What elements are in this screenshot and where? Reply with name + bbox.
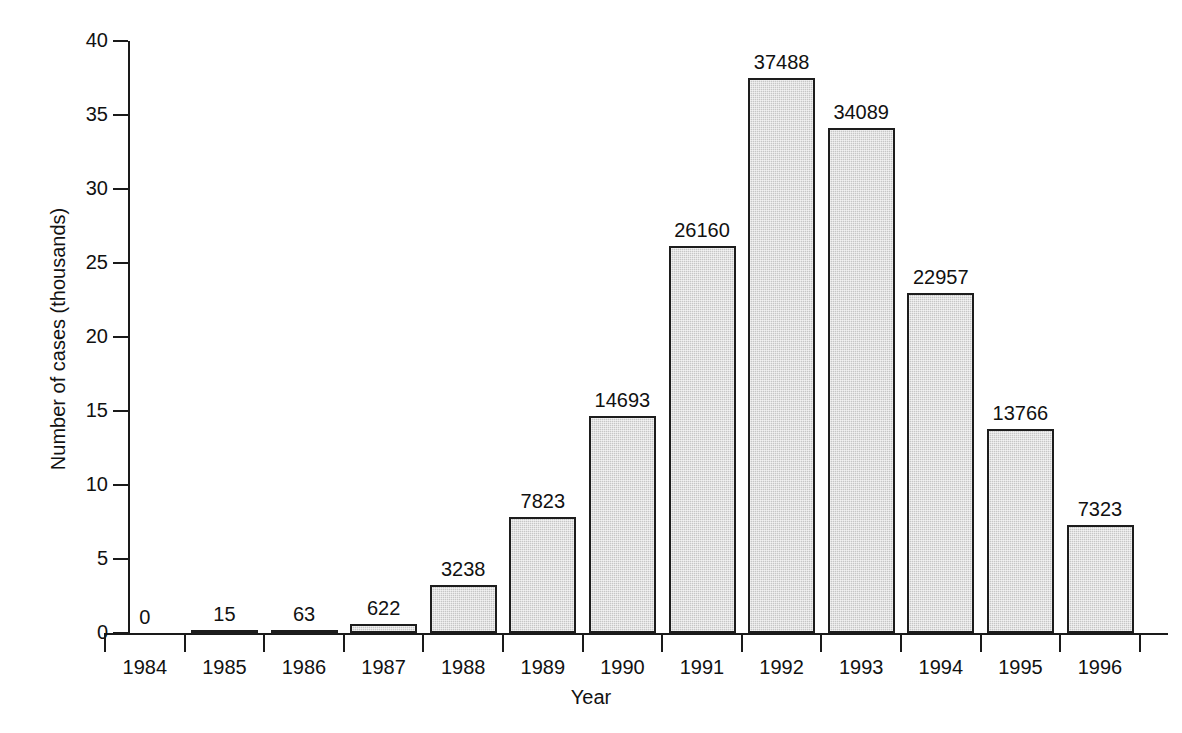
- bar[interactable]: [589, 416, 656, 633]
- bar[interactable]: [907, 293, 974, 633]
- bar-chart-plot-area: 0510152025303540 19841985198619871988198…: [0, 0, 1182, 733]
- bar-value-label: 7323: [1040, 498, 1160, 520]
- y-tick-mark: [113, 114, 128, 116]
- bar-value-label: 37488: [722, 51, 842, 73]
- x-tick-mark: [502, 635, 504, 652]
- y-tick-mark: [113, 262, 128, 264]
- x-tick-mark: [104, 635, 106, 652]
- x-tick-mark: [343, 635, 345, 652]
- bar-value-label: 22957: [881, 266, 1001, 288]
- y-tick-label: 5: [48, 548, 108, 568]
- x-tick-label: 1996: [1050, 656, 1150, 678]
- bar-value-label: 622: [324, 597, 444, 619]
- bar-value-label: 13766: [960, 402, 1080, 424]
- x-tick-mark: [263, 635, 265, 652]
- y-tick-mark: [113, 188, 128, 190]
- x-tick-mark: [422, 635, 424, 652]
- bar[interactable]: [828, 128, 895, 633]
- y-tick-mark: [113, 558, 128, 560]
- y-tick-mark: [113, 336, 128, 338]
- chart-page: 0510152025303540 19841985198619871988198…: [0, 0, 1182, 733]
- bar[interactable]: [271, 630, 338, 634]
- x-tick-mark: [1059, 635, 1061, 652]
- bar[interactable]: [509, 517, 576, 633]
- bar-value-label: 14693: [562, 389, 682, 411]
- y-tick-mark: [113, 632, 128, 634]
- y-tick-label: 35: [48, 104, 108, 124]
- x-axis-title: Year: [0, 686, 1182, 708]
- bar-value-label: 7823: [483, 490, 603, 512]
- x-tick-mark: [1139, 635, 1141, 652]
- x-tick-mark: [741, 635, 743, 652]
- bar[interactable]: [350, 624, 417, 633]
- x-tick-mark: [184, 635, 186, 652]
- bar[interactable]: [1067, 525, 1134, 633]
- bar[interactable]: [669, 246, 736, 633]
- bar-value-label: 3238: [403, 558, 523, 580]
- bar[interactable]: [191, 630, 258, 634]
- y-tick-mark: [113, 410, 128, 412]
- y-axis-title: Number of cases (thousands): [47, 139, 69, 539]
- bar-value-label: 34089: [801, 101, 921, 123]
- bar[interactable]: [987, 429, 1054, 633]
- x-tick-mark: [820, 635, 822, 652]
- bar[interactable]: [748, 78, 815, 633]
- y-tick-label: 40: [48, 30, 108, 50]
- y-axis-line: [128, 41, 130, 635]
- x-tick-mark: [980, 635, 982, 652]
- x-tick-mark: [582, 635, 584, 652]
- bar[interactable]: [430, 585, 497, 633]
- x-tick-mark: [900, 635, 902, 652]
- y-tick-mark: [113, 40, 128, 42]
- y-tick-mark: [113, 484, 128, 486]
- x-tick-mark: [661, 635, 663, 652]
- bar-value-label: 26160: [642, 219, 762, 241]
